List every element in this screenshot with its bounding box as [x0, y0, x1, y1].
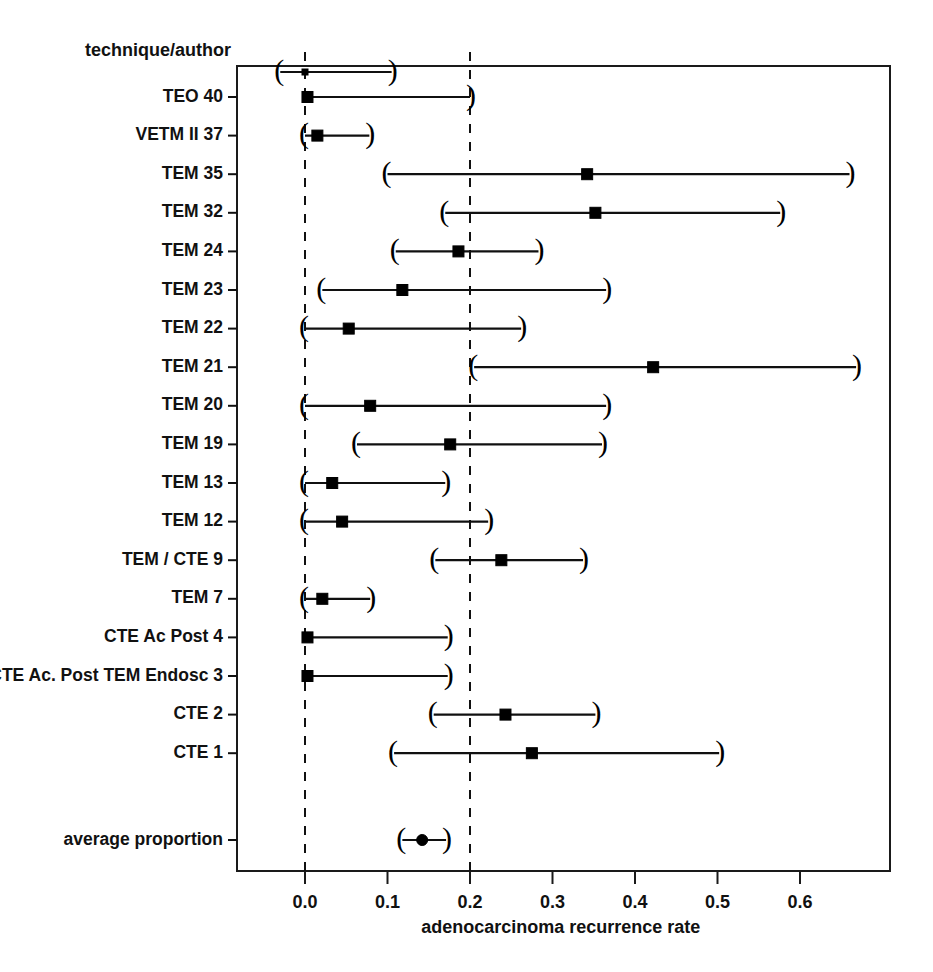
forest-plot-page: 0.00.10.20.30.40.50.6adenocarcinoma recu…: [0, 0, 933, 972]
row-4-label: TEM 24: [162, 240, 224, 260]
row-1-ci-low-cap: (: [299, 116, 309, 150]
row-13-ci-low-cap: (: [299, 580, 309, 614]
header-interval-ci-low-cap: (: [274, 53, 284, 87]
row-9-ci-high-cap: ): [598, 425, 608, 459]
row-6-estimate-marker: [343, 323, 354, 334]
row-3-ci-high-cap: ): [776, 194, 786, 228]
x-tick-label-0: 0.0: [292, 892, 317, 912]
row-12-estimate-marker: [496, 555, 507, 566]
row-6: (): [299, 309, 527, 343]
header-interval-estimate-marker: [302, 69, 308, 75]
row-17: (): [388, 734, 725, 768]
row-13-label: TEM 7: [171, 587, 223, 607]
row-0-label: TEO 40: [163, 86, 224, 106]
row-5-label: TEM 23: [162, 279, 224, 299]
row-5-ci-high-cap: ): [602, 271, 612, 305]
row-12-ci-high-cap: ): [579, 541, 589, 575]
row-2: (): [382, 155, 856, 189]
row-16-ci-high-cap: ): [591, 695, 601, 729]
header-interval-ci-high-cap: ): [388, 53, 398, 87]
row-9: (): [351, 425, 608, 459]
x-tick-label-6: 0.6: [787, 892, 812, 912]
row-2-ci-high-cap: ): [846, 155, 856, 189]
row-4-estimate-marker: [453, 246, 464, 257]
row-10-ci-low-cap: (: [299, 464, 309, 498]
row-7-ci-high-cap: ): [852, 348, 862, 382]
row-12-label: TEM / CTE 9: [122, 549, 223, 569]
row-2-estimate-marker: [582, 169, 593, 180]
row-11-ci-high-cap: ): [484, 502, 494, 536]
row-16-label: CTE 2: [173, 703, 223, 723]
row-5-estimate-marker: [397, 285, 408, 296]
row-3-label: TEM 32: [162, 201, 224, 221]
plot-frame: [237, 66, 890, 871]
row-15: ): [302, 657, 454, 691]
row-17-ci-high-cap: ): [715, 734, 725, 768]
row-12: (): [429, 541, 589, 575]
row-12-ci-low-cap: (: [429, 541, 439, 575]
row-17-ci-low-cap: (: [388, 734, 398, 768]
x-axis-title: adenocarcinoma recurrence rate: [421, 917, 700, 937]
row-15-estimate-marker: [302, 671, 313, 682]
row-6-label: TEM 22: [162, 317, 224, 337]
row-0-estimate-marker: [302, 92, 313, 103]
row-16: (): [428, 695, 602, 729]
row-18-estimate-marker: [417, 835, 428, 846]
row-3-ci-low-cap: (: [439, 194, 449, 228]
row-17-label: CTE 1: [173, 742, 223, 762]
row-13-estimate-marker: [317, 593, 328, 604]
row-6-ci-low-cap: (: [299, 309, 309, 343]
row-18-label: average proportion: [64, 829, 223, 849]
row-11: (): [299, 502, 494, 536]
row-17-estimate-marker: [526, 748, 537, 759]
forest-plot-canvas: 0.00.10.20.30.40.50.6adenocarcinoma recu…: [0, 0, 933, 972]
row-14-ci-high-cap: ): [444, 618, 454, 652]
row-8-estimate-marker: [365, 400, 376, 411]
row-0-ci-high-cap: ): [466, 78, 476, 112]
row-14: ): [302, 618, 454, 652]
row-11-estimate-marker: [337, 516, 348, 527]
row-1: (): [299, 116, 375, 150]
row-15-ci-high-cap: ): [444, 657, 454, 691]
row-10: (): [299, 464, 451, 498]
row-5-ci-low-cap: (: [316, 271, 326, 305]
row-4: (): [390, 232, 545, 266]
row-11-label: TEM 12: [162, 510, 224, 530]
header-interval: (): [274, 53, 397, 87]
row-18: (): [396, 821, 452, 855]
row-8-label: TEM 20: [162, 394, 224, 414]
row-10-ci-high-cap: ): [441, 464, 451, 498]
row-7: (): [468, 348, 862, 382]
row-14-estimate-marker: [302, 632, 313, 643]
row-18-ci-high-cap: ): [442, 821, 452, 855]
row-8: (): [299, 387, 612, 421]
row-7-estimate-marker: [648, 362, 659, 373]
row-1-estimate-marker: [312, 130, 323, 141]
x-tick-label-3: 0.3: [540, 892, 565, 912]
row-1-ci-high-cap: ): [365, 116, 375, 150]
x-tick-label-5: 0.5: [705, 892, 730, 912]
row-9-estimate-marker: [445, 439, 456, 450]
row-8-ci-low-cap: (: [299, 387, 309, 421]
row-7-ci-low-cap: (: [468, 348, 478, 382]
row-14-label: CTE Ac Post 4: [104, 626, 223, 646]
row-1-label: VETM II 37: [135, 124, 223, 144]
row-15-label: CTE Ac. Post TEM Endosc 3: [0, 665, 223, 685]
row-2-ci-low-cap: (: [382, 155, 392, 189]
row-3: (): [439, 194, 786, 228]
row-13-ci-high-cap: ): [366, 580, 376, 614]
row-7-label: TEM 21: [162, 356, 224, 376]
row-9-ci-low-cap: (: [351, 425, 361, 459]
row-2-label: TEM 35: [162, 163, 224, 183]
row-5: (): [316, 271, 612, 305]
row-4-ci-high-cap: ): [534, 232, 544, 266]
row-6-ci-high-cap: ): [517, 309, 527, 343]
row-13: (): [299, 580, 376, 614]
row-header-label: technique/author: [85, 40, 231, 60]
row-16-estimate-marker: [500, 709, 511, 720]
x-tick-label-4: 0.4: [622, 892, 647, 912]
row-8-ci-high-cap: ): [602, 387, 612, 421]
x-tick-label-1: 0.1: [375, 892, 400, 912]
row-10-estimate-marker: [327, 478, 338, 489]
row-4-ci-low-cap: (: [390, 232, 400, 266]
